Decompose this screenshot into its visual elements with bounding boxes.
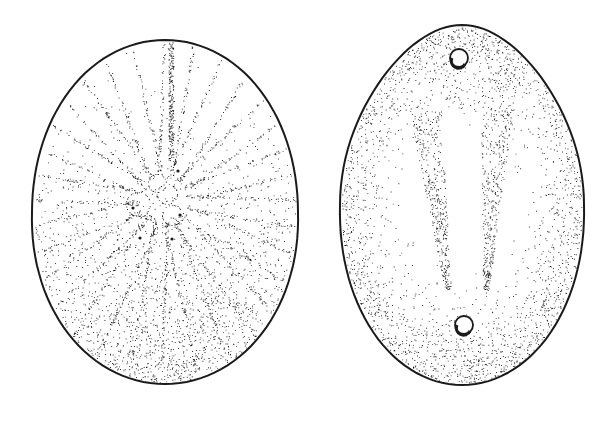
- oral-view-drawing: [340, 25, 584, 385]
- sea-urchin-illustration: [0, 0, 611, 421]
- illustration-stage: [0, 0, 611, 421]
- aboral-view-drawing: [32, 40, 298, 384]
